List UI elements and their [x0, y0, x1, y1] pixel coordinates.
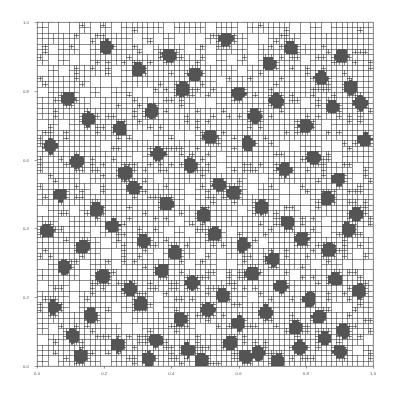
x-tick-label: 1.0	[370, 371, 376, 376]
y-tick-label: 0.0	[8, 364, 29, 369]
quadtree-plot-canvas	[0, 0, 394, 396]
figure-root: 0.00.20.40.60.81.0 0.00.20.40.60.81.0	[0, 0, 394, 396]
x-tick-label: 0.2	[101, 371, 107, 376]
x-tick-label: 0.6	[236, 371, 242, 376]
y-tick-label: 1.0	[8, 20, 29, 25]
y-tick-label: 0.2	[8, 295, 29, 300]
x-tick-label: 0.8	[303, 371, 309, 376]
x-tick-label: 0.4	[168, 371, 174, 376]
y-tick-label: 0.8	[8, 88, 29, 93]
y-tick-label: 0.4	[8, 226, 29, 231]
x-tick-label: 0.0	[34, 371, 40, 376]
y-tick-label: 0.6	[8, 157, 29, 162]
